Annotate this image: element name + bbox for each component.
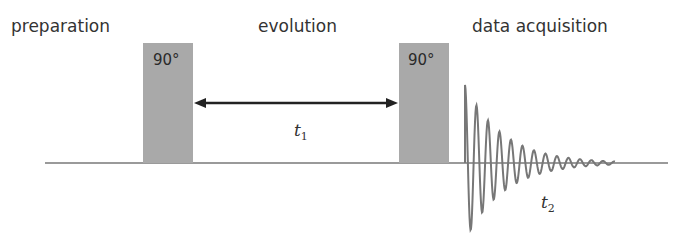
pulse-1-angle: 90°: [153, 51, 180, 69]
pulse-2-angle: 90°: [408, 51, 435, 69]
stage-label-data-acquisition: data acquisition: [472, 16, 608, 36]
pulse-1: 90°: [143, 43, 193, 163]
stage-label-evolution: evolution: [258, 16, 337, 36]
evolution-time-label: t1: [294, 120, 308, 143]
fid-signal: [465, 85, 615, 230]
acquisition-time-label: t2: [541, 192, 555, 215]
pulse-2: 90°: [399, 43, 449, 163]
stage-label-preparation: preparation: [11, 16, 110, 36]
evolution-double-arrow: [194, 98, 398, 108]
